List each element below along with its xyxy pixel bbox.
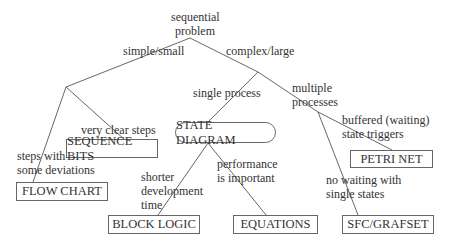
edge-label-single-process: single process bbox=[193, 87, 261, 99]
edge-label-multiple: multiple bbox=[292, 82, 332, 94]
root-label-line2: problem bbox=[175, 25, 215, 37]
edge-label-development: development bbox=[141, 185, 203, 197]
edge-label-complex-large: complex/large bbox=[226, 45, 294, 57]
edge-label-buffered: buffered (waiting) bbox=[342, 114, 429, 126]
edge-label-time: time bbox=[141, 199, 162, 211]
edge-label-some-deviations: some deviations bbox=[17, 164, 95, 176]
node-equations: EQUATIONS bbox=[233, 215, 318, 234]
node-flow-chart: FLOW CHART bbox=[16, 182, 108, 201]
edge-label-no-waiting: no waiting with bbox=[326, 174, 401, 186]
edge-label-single-states: single states bbox=[326, 188, 384, 200]
edge-label-simple-small: simple/small bbox=[123, 45, 184, 57]
edge-label-processes: processes bbox=[292, 96, 338, 108]
edge-label-shorter: shorter bbox=[141, 171, 174, 183]
node-state-diagram: STATE DIAGRAM bbox=[175, 122, 276, 143]
edge-label-steps-with: steps with bbox=[17, 150, 65, 162]
edge-label-state-triggers: state triggers bbox=[342, 128, 404, 140]
node-sequence-bits: SEQUENCE BITS bbox=[66, 139, 158, 158]
node-petri-net: PETRI NET bbox=[350, 150, 433, 168]
root-label-line1: sequential bbox=[171, 11, 220, 23]
node-block-logic: BLOCK LOGIC bbox=[108, 215, 200, 234]
node-sfc-grafset: SFC/GRAFSET bbox=[342, 215, 434, 234]
edge-label-performance: performance bbox=[217, 158, 278, 170]
edge-label-is-important: is important bbox=[217, 172, 275, 184]
